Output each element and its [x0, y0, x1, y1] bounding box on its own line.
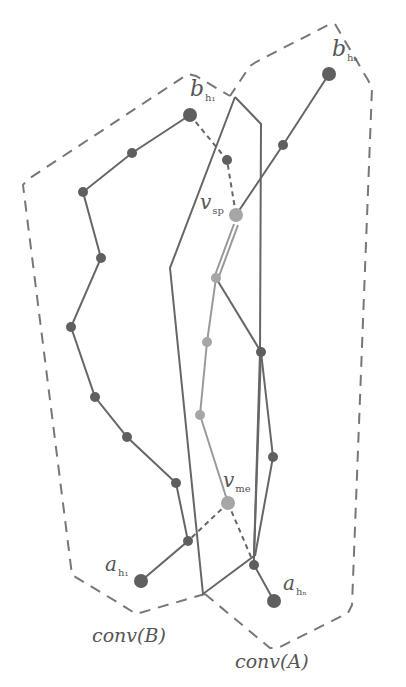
label-b-hn: bhₙ: [332, 36, 358, 61]
conv-a-label: conv(A): [235, 650, 309, 672]
diagram-canvas: [0, 0, 406, 687]
node-a-hn: [267, 594, 281, 608]
conv-b-label: conv(B): [92, 624, 166, 646]
label-v-me: vme: [223, 468, 251, 492]
conv-b-hull: [23, 74, 230, 614]
node-v-sp: [229, 208, 243, 222]
node-v-me: [221, 496, 235, 510]
chain-b: [71, 115, 190, 581]
conv-a-hull: [205, 24, 372, 648]
label-v-sp: vsp: [200, 190, 224, 214]
node-b-h1: [183, 108, 197, 122]
label-b-h1: bh₁: [190, 76, 216, 101]
node-a-h1: [134, 574, 148, 588]
label-a-hn: ahₙ: [283, 571, 307, 595]
label-a-h1: ah₁: [105, 552, 128, 576]
node-b-hn: [322, 67, 336, 81]
